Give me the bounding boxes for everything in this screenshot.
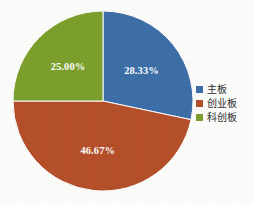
pie-slice-star-market[interactable]: [13, 11, 103, 101]
pie-label-main-board: 28.33%: [124, 65, 159, 76]
pie-label-star-market: 25.00%: [51, 61, 86, 72]
chart-legend: 主板 创业板 科创板: [196, 82, 252, 124]
legend-label-main-board: 主板: [207, 84, 227, 95]
pie-label-chinext-board: 46.67%: [80, 145, 115, 156]
legend-swatch-icon: [196, 86, 203, 93]
legend-item-main-board[interactable]: 主板: [196, 82, 252, 96]
legend-item-star-market[interactable]: 科创板: [196, 110, 252, 124]
legend-label-star-market: 科创板: [207, 112, 237, 123]
legend-swatch-icon: [196, 114, 203, 121]
pie-slices: [13, 11, 193, 191]
pie-chart: 28.33% 46.67% 25.00% 主板 创业板 科创板: [0, 0, 254, 204]
legend-item-chinext-board[interactable]: 创业板: [196, 96, 252, 110]
legend-label-chinext-board: 创业板: [207, 98, 237, 109]
legend-swatch-icon: [196, 100, 203, 107]
